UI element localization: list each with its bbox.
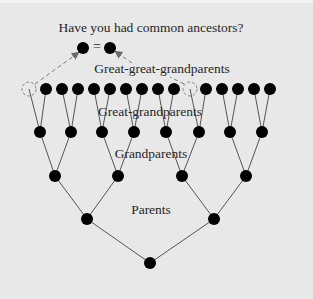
ancestor-node (56, 83, 68, 95)
ancestor-node (200, 83, 212, 95)
tree-edge (214, 176, 246, 219)
tree-edge (40, 132, 55, 176)
tree-edge (262, 89, 270, 132)
ancestor-node (216, 83, 228, 95)
label-grandparents: Grandparents (115, 147, 188, 161)
ancestor-node (160, 126, 172, 138)
tree-edge (40, 89, 46, 132)
tree-edge (71, 89, 78, 132)
ancestor-node (81, 213, 93, 225)
tree-edge (230, 89, 238, 132)
diagram-title: Have you had common ancestors? (58, 21, 243, 35)
ancestor-node (72, 83, 84, 95)
ancestor-node (232, 83, 244, 95)
ancestor-node (96, 126, 108, 138)
ancestor-node (40, 83, 52, 95)
ancestor-node (193, 126, 205, 138)
ancestor-node (256, 126, 268, 138)
ancestor-node (88, 83, 100, 95)
common-ancestor-node (77, 42, 89, 54)
ancestor-node (208, 213, 220, 225)
tree-edge (182, 176, 214, 219)
ancestor-node (128, 126, 140, 138)
ancestor-node (136, 83, 148, 95)
label-great-great-grandparents: Great-great-grandparents (94, 62, 230, 76)
ancestor-node (264, 83, 276, 95)
ancestor-node (34, 126, 46, 138)
tree-edge (246, 132, 262, 176)
ancestor-node (152, 83, 164, 95)
tree-edge (55, 176, 87, 219)
tree-edge (62, 89, 71, 132)
equals-sign: = (93, 40, 101, 54)
ancestor-node (224, 126, 236, 138)
ancestor-node (65, 126, 77, 138)
ancestor-node (168, 83, 180, 95)
tree-edge (150, 219, 214, 263)
tree-edge (222, 89, 230, 132)
tree-edge (87, 176, 118, 219)
tree-edge (254, 89, 262, 132)
ancestry-diagram: Have you had common ancestors? = Great-g… (0, 0, 313, 299)
tree-edge (29, 89, 40, 132)
ancestor-node (112, 170, 124, 182)
tree-edge (87, 219, 150, 263)
ancestor-node (49, 170, 61, 182)
tree-edge (55, 132, 71, 176)
common-ancestor-node (104, 42, 116, 54)
tree-edge (230, 132, 246, 176)
ancestor-node (240, 170, 252, 182)
ancestor-node (120, 83, 132, 95)
ancestor-node (176, 170, 188, 182)
ancestor-node (144, 257, 156, 269)
label-great-grandparents: Great-grandparents (98, 105, 202, 119)
ancestor-node (248, 83, 260, 95)
dashed-arrow-right-tail (170, 77, 184, 84)
label-parents: Parents (131, 203, 171, 217)
dashed-arrow-left (35, 53, 78, 84)
ancestor-node (104, 83, 116, 95)
